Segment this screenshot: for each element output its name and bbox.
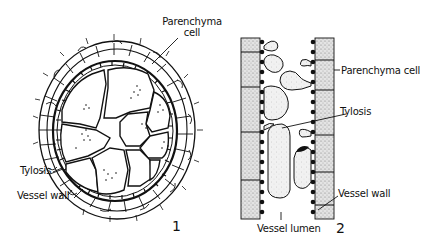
leader-tylosis-2: [282, 114, 346, 128]
label-vessel-lumen: Vessel lumen: [257, 223, 321, 234]
label-tylosis-fig1: Tylosis: [20, 165, 51, 176]
label-vessel-wall-fig1: Vessel wall: [17, 190, 69, 201]
figure-number-1: 1: [172, 219, 181, 233]
label-tylosis-fig2: Tylosis: [340, 106, 371, 117]
figure2-longitudinal-section: [241, 38, 346, 220]
label-vessel-wall-fig2: Vessel wall: [338, 188, 390, 199]
label-parenchyma-cell-fig2: Parenchyma cell: [341, 65, 420, 76]
figure-number-2: 2: [336, 221, 345, 235]
label-parenchyma-line1: Parenchyma: [162, 16, 222, 27]
label-parenchyma-line2: cell: [162, 27, 222, 38]
label-parenchyma-cell-fig1: Parenchyma cell: [162, 16, 222, 38]
